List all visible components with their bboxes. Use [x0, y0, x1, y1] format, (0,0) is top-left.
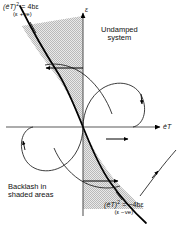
horizontal-axis-label: ėT — [163, 123, 171, 131]
undamped-system-line2: system — [101, 34, 138, 42]
figure-canvas: (ėT)2 = 4bε (ε +ve) (ėT)2 = −4bε (ε −ve)… — [0, 0, 185, 227]
backlash-note: Backlash in shaded areas — [8, 183, 53, 200]
equation-label-negative: (ėT)2 = −4bε (ε −ve) — [104, 200, 144, 216]
undamped-system-note: Undamped system — [101, 26, 138, 43]
vertical-axis-label: ε — [85, 6, 88, 14]
equation-label-positive: (ėT)2 = 4bε (ε +ve) — [3, 2, 39, 18]
equation-label-negative-sub: (ε −ve) — [104, 209, 144, 216]
circle-left-arrow — [23, 141, 25, 150]
circle-right-arrow — [141, 94, 142, 104]
escape-arrow — [152, 171, 158, 178]
equation-label-positive-main: (ėT)2 = 4bε — [3, 2, 39, 11]
backlash-line2: shaded areas — [8, 191, 53, 199]
equation-label-positive-sub: (ε +ve) — [3, 11, 39, 18]
escape-trajectory — [140, 150, 176, 196]
upper-shaded-region — [22, 16, 83, 127]
equation-label-negative-main: (ėT)2 = −4bε — [104, 200, 144, 209]
